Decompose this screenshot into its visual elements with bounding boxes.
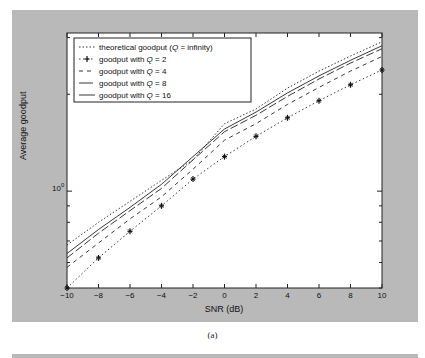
x-tick-label: 4	[285, 291, 290, 300]
star-marker	[348, 82, 353, 88]
legend-item: goodput with Q = 2	[99, 55, 167, 64]
star-marker	[191, 176, 196, 182]
x-tick-label: −4	[157, 291, 167, 300]
x-tick-label: −6	[125, 291, 135, 300]
x-tick-label: 8	[348, 291, 353, 300]
x-axis-label: SNR (dB)	[205, 304, 244, 314]
legend-item: theoretical goodput (Q = infinity)	[99, 43, 213, 52]
star-marker	[222, 154, 227, 160]
star-marker	[96, 255, 101, 261]
x-tick-label: −8	[94, 291, 104, 300]
chart: −10−8−6−4−20246810 theoretical goodput (…	[0, 0, 425, 358]
legend-item: goodput with Q = 4	[99, 67, 167, 76]
star-marker	[128, 228, 133, 234]
legend-item: goodput with Q = 16	[99, 91, 171, 100]
x-tick-label: −2	[188, 291, 198, 300]
star-marker	[159, 203, 164, 209]
x-tick-label: −10	[60, 291, 74, 300]
y-axis-label: Average goodput	[18, 92, 28, 160]
legend-item: goodput with Q = 8	[99, 79, 167, 88]
x-tick-label: 2	[254, 291, 259, 300]
x-tick-label: 6	[317, 291, 322, 300]
star-marker	[317, 98, 322, 104]
star-marker	[254, 133, 259, 139]
figure-caption: (a)	[0, 330, 425, 340]
star-marker	[65, 285, 70, 291]
legend: theoretical goodput (Q = infinity)goodpu…	[74, 38, 251, 102]
x-tick-label: 0	[222, 291, 227, 300]
y-tick-label: 100	[52, 182, 65, 193]
star-marker	[380, 67, 385, 73]
x-tick-label: 10	[378, 291, 387, 300]
star-marker	[285, 115, 290, 121]
